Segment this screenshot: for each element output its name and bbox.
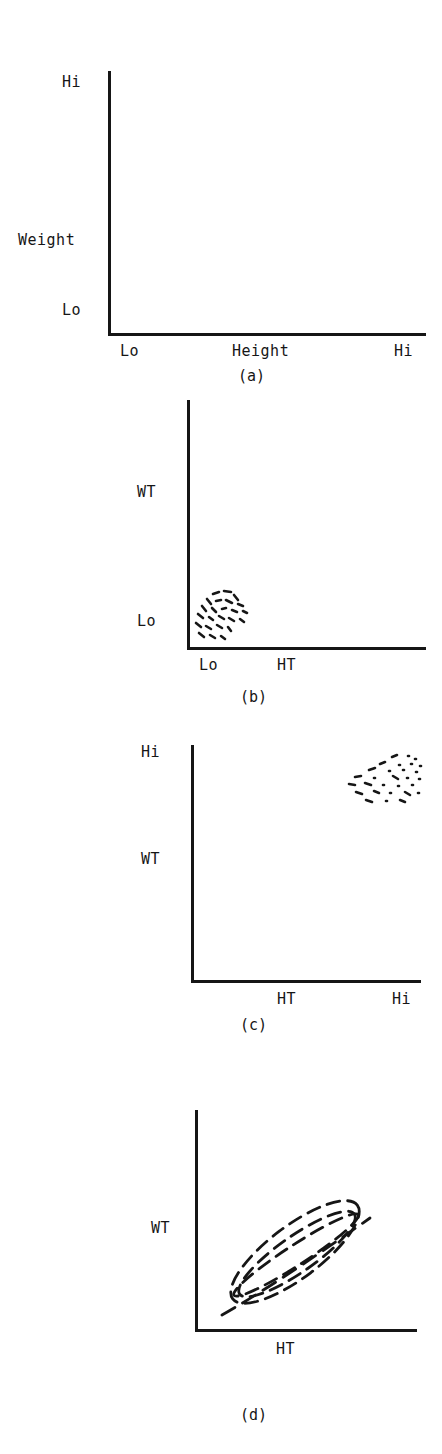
panel-a: Hi Weight Lo Lo Height Hi (a) [0, 0, 442, 392]
panel-c-x-high-label: Hi [392, 992, 411, 1007]
panel-a-x-low-label: Lo [120, 344, 139, 359]
panel-c-y-axis-title: WT [141, 852, 160, 867]
panel-b-plot [0, 392, 442, 712]
panel-a-x-high-label: Hi [394, 344, 413, 359]
panel-d: WT HT (d) [0, 1030, 442, 1454]
panel-a-plot [0, 0, 442, 392]
panel-a-y-axis-title: Weight [18, 233, 75, 248]
panel-a-caption: (a) [238, 369, 265, 384]
panel-d-caption: (d) [240, 1408, 267, 1423]
panel-b: WT Lo Lo HT (b) [0, 392, 442, 712]
panel-c-plot [0, 712, 442, 1030]
panel-b-y-low-label: Lo [137, 614, 156, 629]
panel-c-x-axis-title: HT [277, 992, 296, 1007]
panel-a-x-axis-title: Height [232, 344, 289, 359]
panel-b-x-axis-title: HT [277, 658, 296, 673]
panel-b-point-cluster [196, 591, 247, 639]
panel-b-caption: (b) [240, 690, 267, 705]
panel-b-x-low-label: Lo [199, 658, 218, 673]
panel-d-plot [0, 1030, 442, 1454]
panel-a-y-low-label: Lo [62, 303, 81, 318]
panel-c-point-cluster [349, 755, 421, 802]
panel-c-y-high-label: Hi [141, 745, 160, 760]
panel-c: Hi WT HT Hi (c) [0, 712, 442, 1030]
panel-a-y-high-label: Hi [62, 75, 81, 90]
panel-d-y-axis-title: WT [151, 1221, 170, 1236]
panel-d-correlation-ellipse [217, 1184, 373, 1319]
panel-d-x-axis-title: HT [276, 1342, 295, 1357]
figure-panels-a-to-d: Hi Weight Lo Lo Height Hi (a) [0, 0, 442, 1454]
panel-b-y-axis-title: WT [137, 485, 156, 500]
